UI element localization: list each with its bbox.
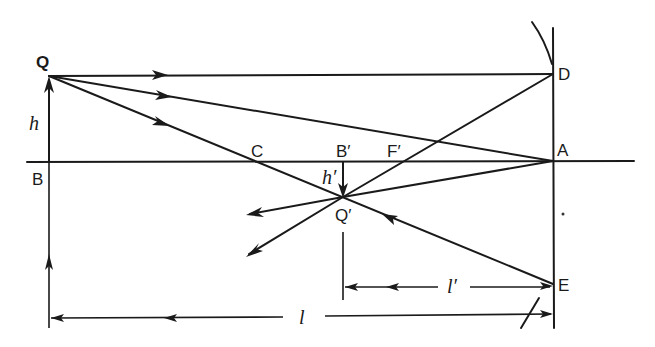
label-h-prime: h′ [322, 166, 337, 188]
label-l-prime: l′ [447, 275, 458, 297]
label-A: A [557, 141, 569, 160]
label-C: C [251, 142, 263, 161]
ray-arrowhead-icon [246, 243, 263, 257]
label-D: D [558, 65, 570, 84]
label-B-prime: B′ [336, 142, 351, 161]
label-l: l [299, 306, 305, 328]
ray-center-incident [49, 76, 553, 284]
ray-parallel-incident [49, 74, 553, 76]
label-h: h [29, 112, 39, 134]
label-Q-prime: Q′ [335, 206, 351, 225]
label-E: E [558, 276, 569, 295]
stray-dot [562, 213, 565, 216]
label-F-prime: F′ [387, 142, 401, 161]
mirror-ray-diagram: Q h B C B′ F′ h′ Q′ D A E l′ l [0, 0, 655, 347]
mirror-arc-bottom [521, 298, 539, 328]
object-distance-line-right [325, 314, 551, 316]
mirror-arc-top [532, 22, 552, 64]
label-B: B [32, 170, 43, 189]
ray-arrowhead-icon [152, 116, 170, 126]
label-Q: Q [36, 53, 49, 72]
